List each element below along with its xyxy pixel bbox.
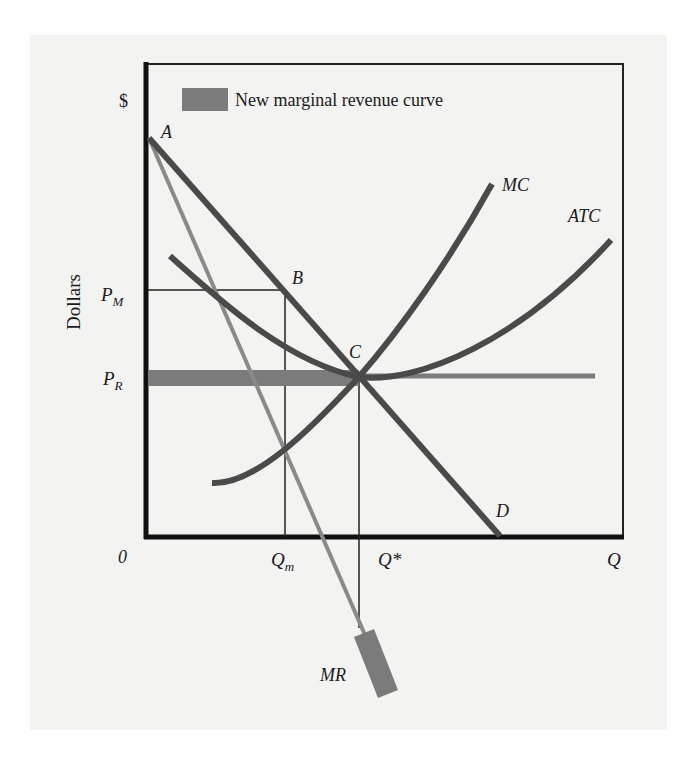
point-c-label: C [349, 342, 362, 362]
q-axis-label: Q [607, 549, 621, 570]
mc-label: MC [501, 175, 530, 195]
origin-label: 0 [118, 547, 127, 567]
dollar-sign-label: $ [119, 91, 128, 111]
pm-label: PM [100, 284, 125, 309]
atc-label: ATC [567, 206, 601, 226]
point-d-label: D [495, 501, 509, 521]
mc-curve [212, 184, 492, 483]
legend-label: New marginal revenue curve [235, 90, 443, 110]
y-axis-title: Dollars [63, 274, 84, 330]
pr-label: PR [102, 368, 123, 393]
chart: New marginal revenue curve $ Dollars PM … [0, 0, 695, 759]
mr-label: MR [319, 665, 346, 685]
point-b-label: B [292, 268, 303, 288]
legend-swatch [182, 88, 228, 111]
demand-curve [149, 138, 500, 536]
point-a-label: A [160, 122, 173, 142]
qm-label: Qm [271, 549, 294, 574]
new-mr-tail [354, 629, 398, 698]
mr-curve [149, 138, 365, 635]
qstar-label: Q* [378, 549, 402, 570]
atc-curve [170, 240, 611, 378]
